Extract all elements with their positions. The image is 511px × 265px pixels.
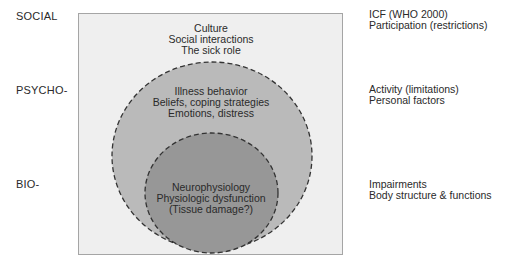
icf-label: Body structure & functions <box>369 190 492 201</box>
level-bio: BIO- <box>16 178 39 190</box>
social-item: The sick role <box>168 45 253 56</box>
social-layer-text: Culture Social interactions The sick rol… <box>168 23 253 56</box>
level-social: SOCIAL <box>16 10 58 22</box>
icf-label: Participation (restrictions) <box>369 20 487 31</box>
psycho-layer-text: Illness behavior Beliefs, coping strateg… <box>153 86 270 119</box>
icf-social: ICF (WHO 2000) Participation (restrictio… <box>369 9 487 31</box>
bio-layer-text: Neurophysiology Physiologic dysfunction … <box>156 182 265 215</box>
icf-psycho: Activity (limitations) Personal factors <box>369 84 459 106</box>
psycho-item: Emotions, distress <box>153 108 270 119</box>
bio-item: (Tissue damage?) <box>156 204 265 215</box>
diagram-canvas <box>0 0 511 265</box>
level-psycho: PSYCHO- <box>16 84 68 96</box>
icf-label: Personal factors <box>369 95 459 106</box>
icf-bio: Impairments Body structure & functions <box>369 179 492 201</box>
